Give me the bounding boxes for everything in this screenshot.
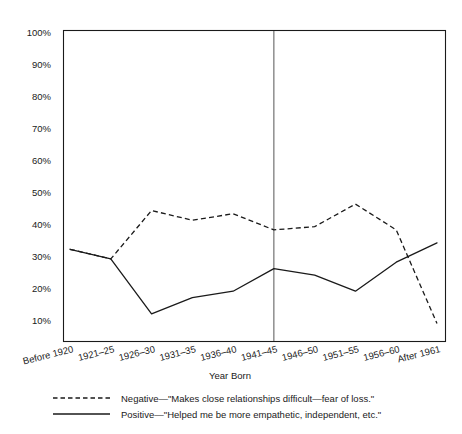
y-tick-label: 10% <box>32 315 52 326</box>
legend-label-negative: Negative—"Makes close relationships diff… <box>121 393 374 404</box>
y-tick-label: 90% <box>32 59 52 70</box>
x-axis-tick-labels: Before 1920 1921–25 1926–30 1931–35 1936… <box>22 343 442 366</box>
y-tick-label: 60% <box>32 155 52 166</box>
x-tick-label: 1936–40 <box>199 343 238 363</box>
y-axis-tick-labels: 100% 90% 80% 70% 60% 50% 40% 30% 20% 10% <box>27 27 52 326</box>
series-positive-line <box>70 243 437 314</box>
x-tick-label: 1926–30 <box>117 343 156 363</box>
x-tick-label: 1941–45 <box>240 343 279 363</box>
y-tick-label: 70% <box>32 123 52 134</box>
y-tick-label: 80% <box>32 91 52 102</box>
y-tick-label: 100% <box>27 27 52 38</box>
x-tick-label: 1946–50 <box>281 343 320 363</box>
x-tick-label: 1951–55 <box>321 343 360 363</box>
y-tick-label: 20% <box>32 283 52 294</box>
x-tick-label: 1931–35 <box>158 343 197 363</box>
legend: Negative—"Makes close relationships diff… <box>53 393 381 420</box>
x-tick-label: Before 1920 <box>22 343 75 366</box>
series-negative-line <box>70 204 437 323</box>
y-tick-label: 40% <box>32 219 52 230</box>
y-tick-label: 50% <box>32 187 52 198</box>
chart-container: 100% 90% 80% 70% 60% 50% 40% 30% 20% 10%… <box>0 0 462 434</box>
x-axis-title: Year Born <box>209 370 251 381</box>
x-tick-label: 1921–25 <box>77 343 116 363</box>
x-tick-label: 1956–60 <box>362 343 401 363</box>
line-chart: 100% 90% 80% 70% 60% 50% 40% 30% 20% 10%… <box>0 0 462 434</box>
y-tick-label: 30% <box>32 251 52 262</box>
x-tick-label: After 1961 <box>396 343 441 364</box>
plot-area-frame <box>64 31 446 342</box>
legend-label-positive: Positive—"Helped me be more empathetic, … <box>121 409 381 420</box>
